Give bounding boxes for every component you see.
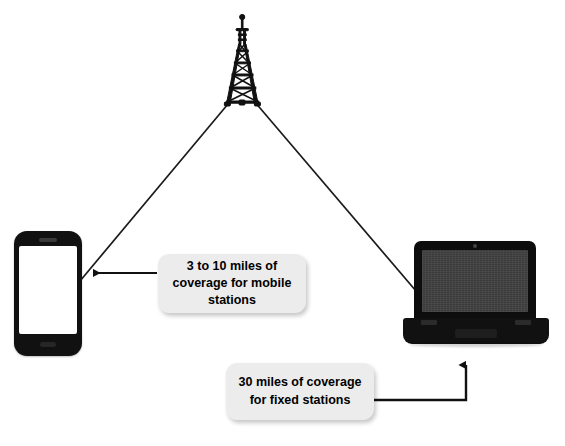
laptop-shadow (409, 342, 543, 347)
laptop-base (403, 318, 549, 344)
laptop-hinge-right (515, 320, 531, 325)
callout-mobile-text: 3 to 10 miles of coverage for mobile sta… (166, 258, 298, 310)
coverage-diagram: 3 to 10 miles of coverage for mobile sta… (0, 0, 565, 446)
callout-fixed-text: 30 miles of coverage for fixed stations (234, 374, 366, 409)
laptop-webcam-icon (473, 244, 477, 248)
phone-home-button (40, 342, 56, 347)
phone-screen (19, 246, 77, 334)
phone-earpiece-icon (39, 238, 57, 242)
mobile-phone (14, 231, 82, 356)
laptop-screen (422, 250, 528, 312)
callout-mobile-coverage: 3 to 10 miles of coverage for mobile sta… (158, 254, 306, 313)
callout-fixed-coverage: 30 miles of coverage for fixed stations (226, 363, 374, 420)
base-station-tower (205, 12, 280, 112)
laptop-trackpad (455, 329, 497, 338)
laptop-computer (403, 241, 549, 353)
laptop-hinge-left (421, 320, 437, 325)
fixed-callout-arrow (374, 365, 466, 400)
laptop-lid (414, 241, 536, 320)
